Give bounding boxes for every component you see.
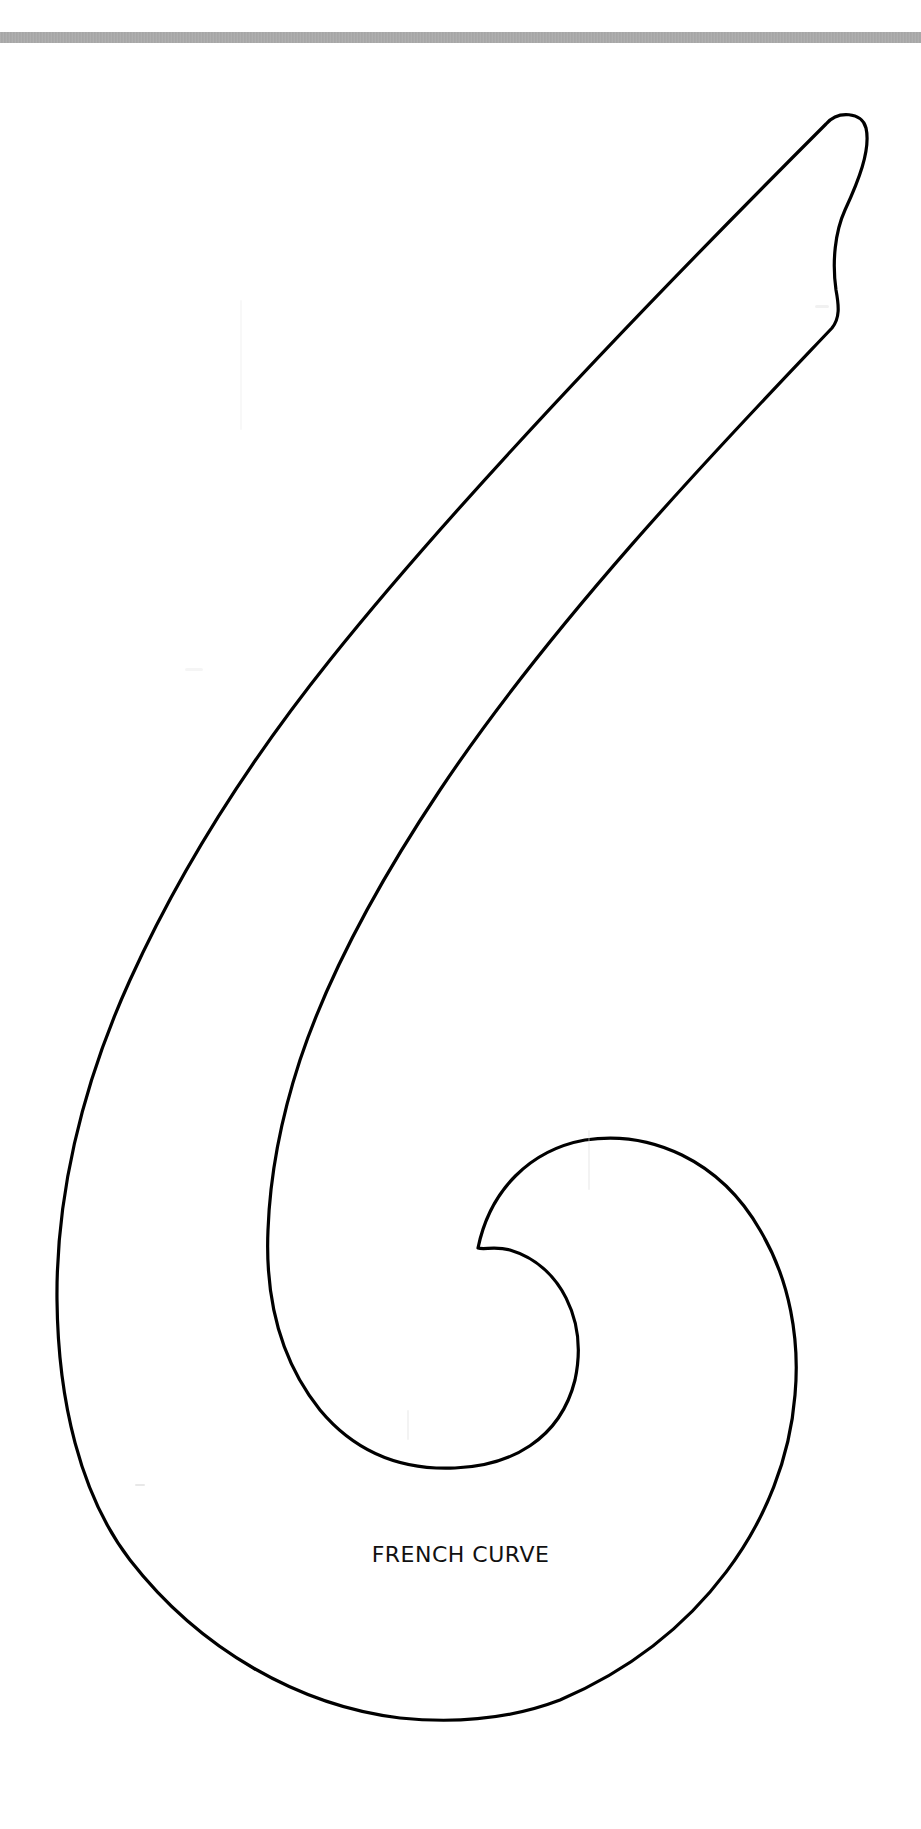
- scan-smudge: [135, 1484, 145, 1486]
- curve-label: FRENCH CURVE: [0, 1542, 921, 1567]
- scan-smudge: [240, 300, 242, 430]
- scan-smudge: [185, 668, 203, 671]
- printable-page: FRENCH CURVE: [0, 0, 921, 1829]
- scan-smudge: [815, 305, 829, 308]
- scan-smudge: [588, 1130, 590, 1190]
- scan-smudge: [407, 1410, 409, 1440]
- french-curve-outline: [57, 115, 867, 1721]
